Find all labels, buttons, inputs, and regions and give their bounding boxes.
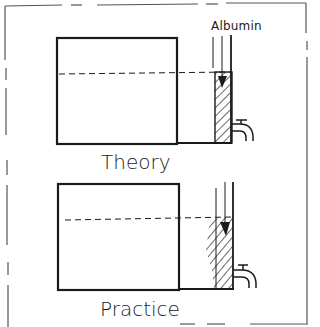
practice-panel (58, 182, 256, 290)
practice-tap-icon (234, 265, 256, 288)
theory-panel (57, 35, 253, 144)
theory-water-level (59, 72, 232, 74)
albumin-label: Albumin (211, 19, 262, 33)
practice-albumin-layer (206, 217, 233, 289)
practice-caption: Practice (100, 297, 180, 321)
theory-tap-icon (232, 120, 253, 141)
theory-caption: Theory (101, 150, 171, 174)
practice-tank (58, 184, 179, 290)
practice-water-level (65, 217, 233, 220)
theory-tank (57, 38, 177, 144)
